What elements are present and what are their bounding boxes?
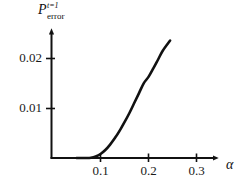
y-tick-label-0.01: 0.01 — [0, 100, 42, 116]
x-tick-label-0.1: 0.1 — [80, 163, 121, 179]
x-tick-label-0.3: 0.3 — [176, 163, 217, 179]
y-axis-label: Pt=1error — [38, 2, 47, 18]
chart-figure: Pt=1error α 0.02 0.01 0.1 0.2 0.3 — [0, 0, 251, 185]
data-series-curve — [77, 41, 171, 158]
x-tick-label-0.2: 0.2 — [128, 163, 169, 179]
y-axis-label-superscript: t=1 — [47, 1, 59, 10]
y-tick-label-0.02: 0.02 — [0, 50, 42, 66]
plot-canvas — [0, 0, 251, 185]
y-axis-label-base: P — [38, 2, 47, 17]
x-axis-label: α — [226, 157, 233, 173]
y-axis-label-subscript: error — [47, 11, 65, 21]
